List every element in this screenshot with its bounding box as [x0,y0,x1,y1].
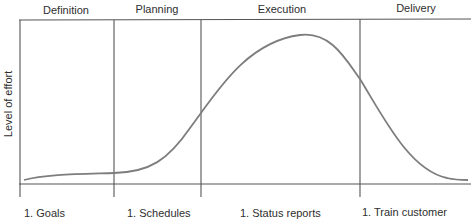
life-cycle-diagram: Definition Planning Execution Delivery L… [0,0,471,223]
execution-item-status-reports: 1. Status reports [240,207,321,219]
definition-item-goals: 1. Goals [24,207,65,219]
phase-label-execution: Execution [258,3,306,15]
effort-curve [24,35,468,180]
phase-label-delivery: Delivery [396,2,436,14]
delivery-item-train-customer: 1. Train customer [362,206,447,218]
phase-label-planning: Planning [136,3,179,15]
top-border-line [19,19,471,20]
y-axis-label: Level of effort [2,71,14,137]
phase-label-definition: Definition [43,4,89,16]
planning-item-schedules: 1. Schedules [127,207,191,219]
